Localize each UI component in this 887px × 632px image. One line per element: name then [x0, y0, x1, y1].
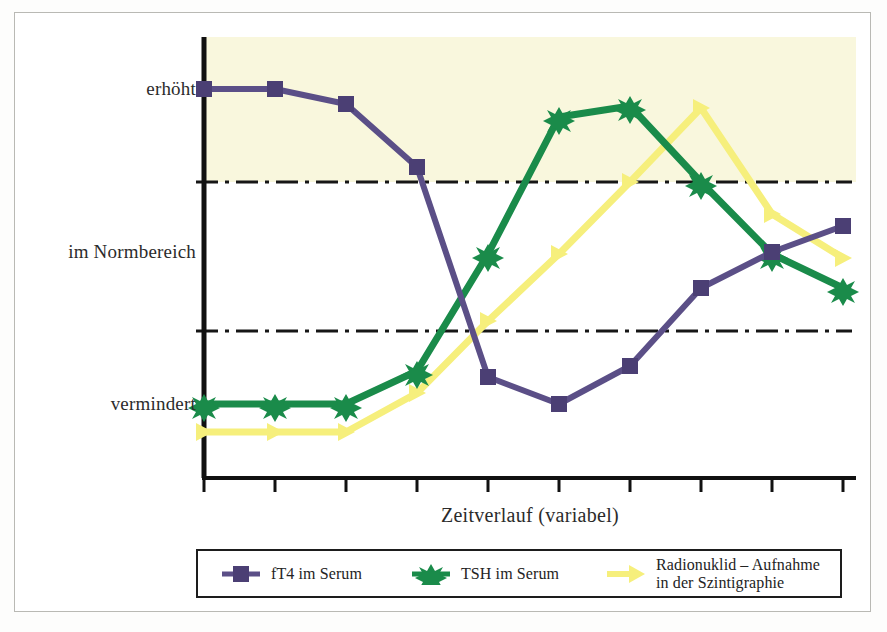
figure-root: erhöht im Normbereich vermindert Zeitver…	[0, 0, 887, 632]
y-axis-labels: erhöht im Normbereich vermindert	[20, 0, 196, 632]
x-axis-title: Zeitverlauf (variabel)	[204, 504, 856, 527]
legend-label-radionuclide: Radionuklid – Aufnahme in der Szintigrap…	[656, 556, 820, 592]
legend-marker-square-icon	[220, 563, 262, 585]
y-axis-label-normal: im Normbereich	[68, 242, 196, 262]
x-axis-ticks	[204, 478, 843, 492]
legend-label-ft4: fT4 im Serum	[271, 565, 362, 583]
chart-legend: fT4 im Serum TSH im Serum Radionuklid – …	[196, 549, 842, 598]
y-axis-label-high: erhöht	[146, 79, 196, 99]
legend-item-tsh: TSH im Serum	[410, 551, 559, 596]
y-axis-label-low: vermindert	[111, 394, 196, 414]
legend-marker-star-icon	[410, 563, 452, 585]
elevated-range-shading	[204, 37, 856, 182]
legend-label-tsh: TSH im Serum	[461, 565, 559, 583]
legend-item-ft4: fT4 im Serum	[220, 551, 362, 596]
legend-marker-arrow-icon	[605, 563, 647, 585]
legend-item-radionuclide: Radionuklid – Aufnahme in der Szintigrap…	[605, 551, 820, 596]
